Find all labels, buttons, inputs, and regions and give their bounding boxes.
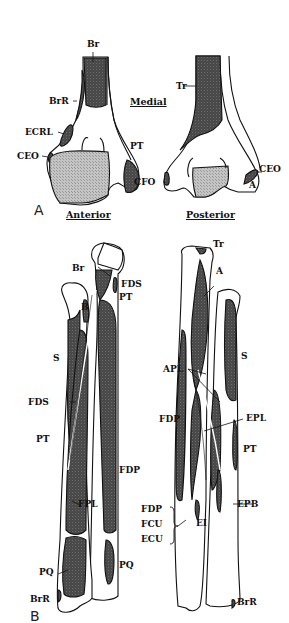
- label-tr: Tr: [176, 82, 187, 91]
- label-pt: PT: [130, 142, 143, 151]
- panel-b-heading-anterior: Anterior: [66, 210, 111, 220]
- label-anterior-fpl: FPL: [78, 500, 98, 509]
- label-posterior-pt: PT: [243, 445, 256, 454]
- label-posterior-group-ecu: ECU: [141, 535, 163, 544]
- panel-a-right-humerus: [164, 56, 260, 197]
- panel-b-letter: B: [30, 609, 40, 623]
- label-anterior-b: B: [81, 303, 89, 312]
- label-anterior-fds: FDS: [28, 398, 49, 407]
- label-posterior-epb: EPB: [237, 500, 258, 509]
- label-ceo-right: CEO: [259, 165, 281, 174]
- label-anterior-pt-top: PT: [119, 293, 132, 302]
- panel-b-posterior-forearm: [170, 246, 240, 611]
- panel-b-anterior-forearm: [57, 243, 124, 612]
- label-brr: BrR: [49, 97, 69, 106]
- panel-b-heading-posterior: Posterior: [186, 210, 235, 220]
- label-anterior-fds-top: FDS: [121, 280, 142, 289]
- label-anterior-brr: BrR: [30, 595, 50, 604]
- label-posterior-tr: Tr: [213, 240, 224, 249]
- panel-a-heading-medial: Medial: [130, 97, 167, 107]
- panel-a-letter: A: [34, 203, 44, 217]
- label-posterior-a: A: [216, 267, 223, 276]
- label-anterior-pq-left: PQ: [39, 568, 54, 577]
- label-posterior-group-fdp: FDP: [141, 505, 162, 514]
- label-anterior-pt: PT: [36, 435, 49, 444]
- label-posterior-fdp: FDP: [159, 415, 180, 424]
- label-posterior-ei: EI: [196, 519, 207, 528]
- label-posterior-s: S: [241, 352, 248, 361]
- label-cfo: CFO: [134, 178, 155, 187]
- label-br: Br: [87, 40, 99, 49]
- panel-a-left-humerus: [47, 57, 139, 205]
- label-posterior-apl: APL: [163, 365, 183, 374]
- label-anterior-pq-right: PQ: [119, 561, 134, 570]
- label-a: A: [249, 181, 256, 190]
- label-anterior-br: Br: [72, 264, 84, 273]
- forearm-muscle-attachment-diagram: [0, 0, 289, 623]
- label-anterior-fdp: FDP: [119, 466, 140, 475]
- label-posterior-group-fcu: FCU: [141, 520, 162, 529]
- label-posterior-epl: EPL: [246, 414, 266, 423]
- label-anterior-s: S: [53, 354, 60, 363]
- label-posterior-brr: BrR: [237, 598, 257, 607]
- label-ceo-left: CEO: [17, 152, 39, 161]
- label-ecrl: ECRL: [25, 128, 53, 137]
